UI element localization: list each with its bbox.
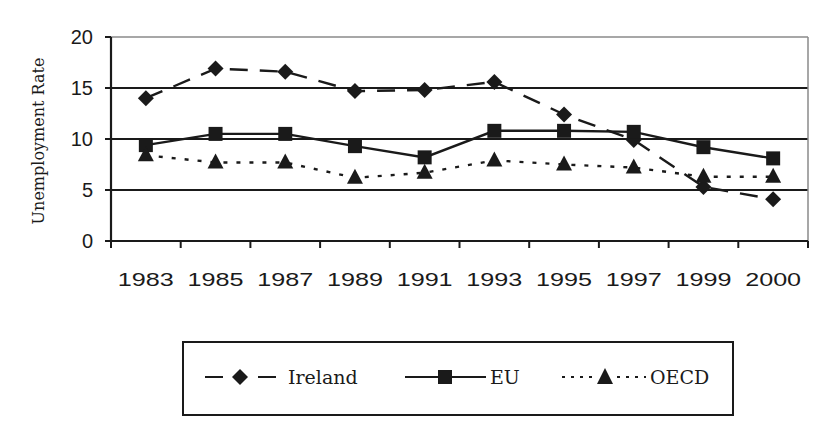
series-lines [138,61,781,208]
diamond-marker-icon [417,82,433,98]
x-tick-label: 1999 [675,269,731,290]
x-tick-label: 2000 [745,269,801,290]
square-marker-icon [348,139,362,153]
y-axis-label: Unemployment Rate [29,58,48,225]
square-marker-icon [418,150,432,164]
x-tick-label: 1995 [536,269,592,290]
x-axis-ticks: 1983198519871989199119931995199719992000 [111,241,808,290]
diamond-marker-icon [208,61,224,77]
y-axis-title: Unemployment Rate [29,58,48,225]
diamond-marker-icon [765,191,781,207]
x-tick-label: 1991 [397,269,453,290]
y-tick-label: 10 [71,128,93,150]
square-marker-icon [766,151,780,165]
triangle-marker-icon [765,168,781,183]
legend-label-oecd: OECD [650,366,709,388]
square-marker-icon [438,370,452,384]
triangle-marker-icon [277,153,293,168]
diamond-marker-icon [347,83,363,99]
legend-label-eu: EU [490,366,520,388]
square-marker-icon [209,127,223,141]
diamond-marker-icon [556,107,572,123]
square-marker-icon [696,140,710,154]
series-line [146,131,773,159]
y-tick-label: 5 [82,179,93,201]
unemployment-line-chart: Unemployment Rate 05101520 1983198519871… [0,0,834,435]
square-marker-icon [627,125,641,139]
x-tick-label: 1987 [257,269,313,290]
triangle-marker-icon [486,151,502,166]
square-marker-icon [487,124,501,138]
x-tick-label: 1989 [327,269,383,290]
x-tick-label: 1985 [188,269,244,290]
legend-label-ireland: Ireland [288,366,358,388]
y-tick-label: 20 [71,26,93,48]
square-marker-icon [278,127,292,141]
x-tick-label: 1983 [118,269,174,290]
square-marker-icon [557,124,571,138]
triangle-marker-icon [626,159,642,174]
diamond-marker-icon [277,64,293,80]
triangle-marker-icon [208,153,224,168]
diamond-marker-icon [138,90,154,106]
triangle-marker-icon [347,169,363,184]
legend: Ireland EU OECD [183,342,733,415]
triangle-marker-icon [556,156,572,171]
series-line [146,155,773,178]
x-tick-label: 1997 [606,269,662,290]
y-tick-label: 15 [71,77,93,99]
series-oecd [138,146,781,183]
y-tick-label: 0 [82,230,93,252]
triangle-marker-icon [695,168,711,183]
series-eu [139,124,780,166]
x-tick-label: 1993 [466,269,522,290]
y-axis-ticks: 05101520 [71,26,111,252]
